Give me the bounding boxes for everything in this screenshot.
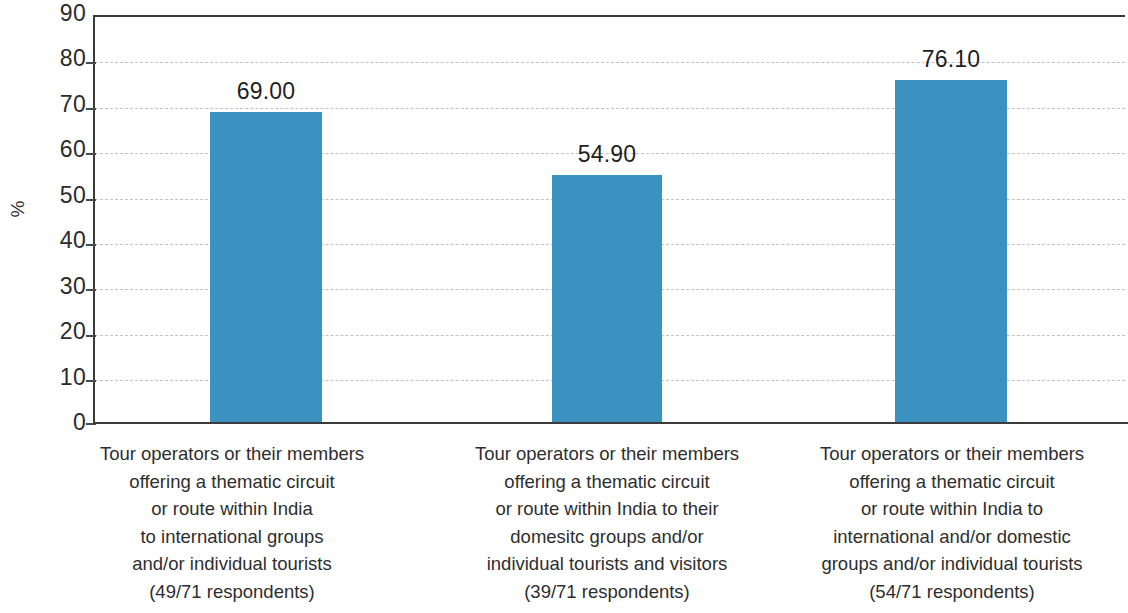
category-label-1-line-6: (49/71 respondents) xyxy=(72,578,392,606)
category-label-2-line-1: Tour operators or their members xyxy=(437,440,777,468)
category-label-2: Tour operators or their members offering… xyxy=(437,440,777,605)
x-axis-line xyxy=(93,422,1128,424)
category-label-1-line-3: or route within India xyxy=(72,495,392,523)
bar-category-3[interactable] xyxy=(895,80,1007,423)
tickmark-50 xyxy=(86,199,96,201)
y-tick-label: 30 xyxy=(0,275,86,298)
bar-category-1[interactable] xyxy=(210,112,322,423)
category-label-3-line-3: or route within India to xyxy=(782,495,1122,523)
tickmark-70 xyxy=(86,108,96,110)
category-label-3-line-5: groups and/or individual tourists xyxy=(782,550,1122,578)
tickmark-10 xyxy=(86,380,96,382)
category-label-1-line-5: and/or individual tourists xyxy=(72,550,392,578)
category-label-3-line-2: offering a thematic circuit xyxy=(782,468,1122,496)
y-axis-tick-labels: 90 80 70 60 50 40 30 20 10 0 xyxy=(0,0,86,440)
category-label-1-line-1: Tour operators or their members xyxy=(72,440,392,468)
category-label-3-line-4: international and/or domestic xyxy=(782,523,1122,551)
tickmark-80 xyxy=(86,62,96,64)
y-tick-label: 0 xyxy=(0,411,86,434)
bar-value-label-2: 54.90 xyxy=(552,143,662,166)
category-label-3: Tour operators or their members offering… xyxy=(782,440,1122,605)
bar-category-2[interactable] xyxy=(552,175,662,423)
tickmark-40 xyxy=(86,244,96,246)
category-label-1-line-2: offering a thematic circuit xyxy=(72,468,392,496)
y-tick-label: 90 xyxy=(0,2,86,25)
y-tick-label: 70 xyxy=(0,93,86,116)
category-label-1-line-4: to international groups xyxy=(72,523,392,551)
tickmark-30 xyxy=(86,289,96,291)
category-label-2-line-4: domesitc groups and/or xyxy=(437,523,777,551)
category-label-3-line-1: Tour operators or their members xyxy=(782,440,1122,468)
category-label-2-line-3: or route within India to their xyxy=(437,495,777,523)
y-tick-label: 10 xyxy=(0,366,86,389)
y-tick-label: 60 xyxy=(0,138,86,161)
y-tick-label: 40 xyxy=(0,229,86,252)
bar-value-label-1: 69.00 xyxy=(210,80,322,103)
bar-value-label-3: 76.10 xyxy=(895,48,1007,71)
category-label-2-line-6: (39/71 respondents) xyxy=(437,578,777,606)
x-axis-category-labels: Tour operators or their members offering… xyxy=(0,440,1122,613)
category-label-2-line-2: offering a thematic circuit xyxy=(437,468,777,496)
category-label-2-line-5: individual tourists and visitors xyxy=(437,550,777,578)
tickmark-20 xyxy=(86,335,96,337)
y-tick-label: 20 xyxy=(0,320,86,343)
y-tick-label: 50 xyxy=(0,184,86,207)
y-tick-label: 80 xyxy=(0,47,86,70)
plot-area: 69.00 54.90 76.10 xyxy=(93,15,1125,423)
category-label-1: Tour operators or their members offering… xyxy=(72,440,392,605)
category-label-3-line-6: (54/71 respondents) xyxy=(782,578,1122,606)
tickmark-60 xyxy=(86,153,96,155)
